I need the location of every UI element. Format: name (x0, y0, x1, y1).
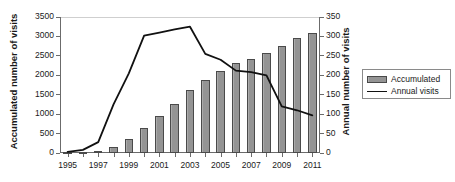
bar-swatch-icon (367, 76, 387, 83)
right-tick (320, 133, 324, 134)
right-tick-label: 50 (326, 128, 366, 138)
right-tick (320, 17, 324, 18)
right-tick (320, 36, 324, 37)
legend-label-annual-visits: Annual visits (391, 86, 439, 96)
x-tick-label: 2011 (292, 160, 332, 170)
line-swatch-icon (367, 88, 387, 95)
left-tick-label: 3500 (14, 11, 54, 21)
right-tick (320, 55, 324, 56)
plot-area: 0500100015002000250030003500 05010015020… (60, 17, 320, 153)
left-tick-label: 2000 (14, 69, 54, 79)
x-tick (205, 153, 206, 157)
x-tick (282, 153, 283, 157)
right-tick-label: 350 (326, 11, 366, 21)
x-tick (312, 153, 313, 157)
x-tick (297, 153, 298, 157)
x-tick (129, 153, 130, 157)
legend-item-accumulated: Accumulated (367, 73, 446, 85)
left-tick-label: 1000 (14, 108, 54, 118)
right-tick-label: 300 (326, 30, 366, 40)
left-tick-label: 2500 (14, 50, 54, 60)
left-tick-label: 1500 (14, 89, 54, 99)
right-tick-label: 100 (326, 108, 366, 118)
x-tick (266, 153, 267, 157)
x-tick (114, 153, 115, 157)
legend-item-annual-visits: Annual visits (367, 85, 446, 97)
x-tick (236, 153, 237, 157)
x-tick (175, 153, 176, 157)
right-tick (320, 94, 324, 95)
left-tick-label: 500 (14, 128, 54, 138)
right-tick (320, 75, 324, 76)
x-tick (221, 153, 222, 157)
left-tick-label: 0 (14, 147, 54, 157)
x-tick (251, 153, 252, 157)
right-tick-label: 0 (326, 147, 366, 157)
chart-legend: Accumulated Annual visits (362, 69, 451, 99)
left-tick-label: 3000 (14, 30, 54, 40)
right-tick (320, 114, 324, 115)
x-tick (144, 153, 145, 157)
right-tick (320, 153, 324, 154)
right-tick-label: 200 (326, 69, 366, 79)
line-series-annual-visits (60, 17, 320, 153)
right-tick-label: 150 (326, 89, 366, 99)
right-tick-label: 250 (326, 50, 366, 60)
chart-figure: Accumulated number of visits Annual numb… (0, 0, 455, 182)
x-tick (159, 153, 160, 157)
x-tick (190, 153, 191, 157)
legend-label-accumulated: Accumulated (391, 74, 440, 84)
x-tick (98, 153, 99, 157)
